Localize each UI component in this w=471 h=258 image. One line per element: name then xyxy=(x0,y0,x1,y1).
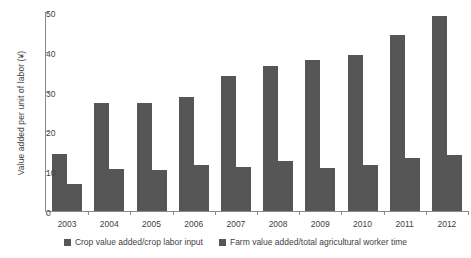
y-axis-tick-mark xyxy=(46,131,49,132)
x-axis-tick-label: 2004 xyxy=(100,219,119,229)
x-axis-tick-label: 2007 xyxy=(226,219,245,229)
bar xyxy=(137,103,152,211)
x-axis-tick-mark xyxy=(341,211,342,215)
x-axis-tick-mark xyxy=(88,211,89,215)
y-axis-tick-mark xyxy=(46,171,49,172)
y-axis-tick-label: 30 xyxy=(46,89,59,99)
bar xyxy=(236,167,251,211)
bar xyxy=(348,55,363,211)
bar xyxy=(363,165,378,211)
x-axis-tick-mark xyxy=(215,211,216,215)
x-axis-tick-label: 2005 xyxy=(142,219,161,229)
legend-label: Farm value added/total agricultural work… xyxy=(230,237,407,247)
y-axis-tick-label: 40 xyxy=(46,49,59,59)
x-axis-tick-label: 2008 xyxy=(269,219,288,229)
x-axis-tick-mark xyxy=(257,211,258,215)
y-axis-tick-label: 10 xyxy=(46,168,59,178)
legend-item: Crop value added/crop labor input xyxy=(64,237,203,247)
bar xyxy=(432,16,447,211)
bar xyxy=(390,35,405,211)
bar xyxy=(320,168,335,211)
legend-swatch-icon xyxy=(219,239,226,246)
legend-item: Farm value added/total agricultural work… xyxy=(219,237,407,247)
plot-area xyxy=(46,12,468,211)
x-axis-tick-label: 2011 xyxy=(396,219,414,229)
x-axis-tick-label: 2003 xyxy=(58,219,77,229)
bar xyxy=(405,158,420,211)
x-axis-tick-label: 2009 xyxy=(311,219,330,229)
legend-label: Crop value added/crop labor input xyxy=(75,237,203,247)
y-axis-tick-label: 0 xyxy=(46,208,55,218)
legend-swatch-icon xyxy=(64,239,71,246)
bar xyxy=(109,169,124,211)
x-axis-tick-mark xyxy=(130,211,131,215)
x-axis-tick-mark xyxy=(46,211,47,215)
bar-chart-figure: Value added per unit of labor (¥) 010203… xyxy=(0,0,471,258)
y-axis-tick-mark xyxy=(46,92,49,93)
x-axis-tick-label: 2006 xyxy=(184,219,203,229)
bar xyxy=(194,165,209,211)
x-axis-tick-mark xyxy=(299,211,300,215)
y-axis-tick-mark xyxy=(46,52,49,53)
x-axis-tick-mark xyxy=(468,211,469,215)
bar xyxy=(305,60,320,211)
chart-legend: Crop value added/crop labor inputFarm va… xyxy=(0,237,471,247)
y-axis-title: Value added per unit of labor (¥) xyxy=(16,18,26,208)
bar xyxy=(447,155,462,211)
x-axis-tick-mark xyxy=(384,211,385,215)
bar xyxy=(52,154,67,211)
y-axis-tick-mark xyxy=(46,12,49,13)
x-axis-tick-label: 2012 xyxy=(437,219,456,229)
bar xyxy=(263,66,278,211)
bar xyxy=(152,170,167,211)
bar xyxy=(94,103,109,211)
x-axis-tick-mark xyxy=(173,211,174,215)
x-axis-tick-label: 2010 xyxy=(353,219,372,229)
y-axis-tick-label: 50 xyxy=(46,9,59,19)
bar xyxy=(179,97,194,211)
y-axis-tick-label: 20 xyxy=(46,128,59,138)
bar xyxy=(278,161,293,211)
bar xyxy=(221,76,236,211)
x-axis-tick-mark xyxy=(426,211,427,215)
bar xyxy=(67,184,82,211)
